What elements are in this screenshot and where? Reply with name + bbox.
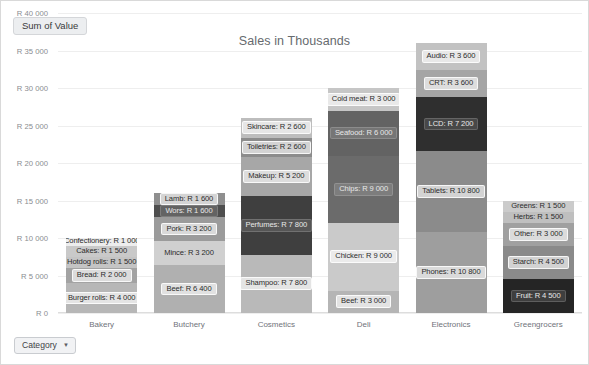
bar-segment[interactable]: Starch: R 4 500 xyxy=(503,246,574,280)
bar-segment[interactable]: Perfumes: R 7 800 xyxy=(241,196,312,255)
bar-segment[interactable]: Lamb: R 1 600 xyxy=(154,193,225,205)
bar-segment[interactable]: Hotdog rolls: R 1 500 xyxy=(66,257,137,268)
stacked-bar[interactable]: Beef: R 3 000Chicken: R 9 000Chips: R 9 … xyxy=(328,88,399,313)
bar-segment-label: Other: R 3 000 xyxy=(509,228,567,241)
bar-segment[interactable]: Pork: R 3 200 xyxy=(154,217,225,241)
bar-segment-label: Wors: R 1 600 xyxy=(160,205,217,217)
bar-segment-label: Phones: R 10 800 xyxy=(416,266,485,279)
bar-segment[interactable]: Audio: R 3 600 xyxy=(416,43,487,70)
bar-segment[interactable]: Beef: R 3 000 xyxy=(328,291,399,314)
bar-segment-label: Makeup: R 5 200 xyxy=(243,170,309,183)
bar-segment-label: Perfumes: R 7 800 xyxy=(241,219,312,232)
bar-segment-label: Toiletries: R 2 600 xyxy=(242,141,311,154)
bar-segment-label: Chips: R 9 000 xyxy=(334,183,393,196)
bar-segment-label: Confectionery: R 1 000 xyxy=(66,238,137,246)
bar-segment-label: Hotdog rolls: R 1 500 xyxy=(66,257,137,268)
y-tick-label: R 10 000 xyxy=(0,234,48,243)
category-filter-button[interactable]: Category ▼ xyxy=(14,337,76,354)
bar-segment-label: Beef: R 3 000 xyxy=(336,295,391,308)
y-tick-label: R 25 000 xyxy=(0,121,48,130)
y-tick-label: R 0 xyxy=(0,309,48,318)
y-tick-label: R 20 000 xyxy=(0,159,48,168)
stacked-bar[interactable]: Burger rolls: R 4 000Bread: R 2 000Hotdo… xyxy=(66,238,137,313)
plot-area: R 0R 5 000R 10 000R 15 000R 20 000R 25 0… xyxy=(58,13,582,313)
bar-segment[interactable]: Other: R 3 000 xyxy=(503,223,574,246)
bar-segment[interactable]: Burger rolls: R 4 000 xyxy=(66,283,137,313)
y-tick-label: R 5 000 xyxy=(0,271,48,280)
bar-segment-label: Bread: R 2 000 xyxy=(72,269,132,282)
gridline xyxy=(58,51,582,52)
bar-segment[interactable]: Shampoo: R 7 800 xyxy=(241,255,312,314)
bar-segment-label: Starch: R 4 500 xyxy=(508,256,569,269)
x-tick-label: Greengrocers xyxy=(495,320,582,329)
bar-segment-label: Audio: R 3 600 xyxy=(422,50,481,63)
bar-segment-label: Cakes: R 1 500 xyxy=(71,246,132,257)
bar-segment-label: LCD: R 7 200 xyxy=(424,118,479,131)
y-tick-label: R 15 000 xyxy=(0,196,48,205)
stacked-bar[interactable]: Fruit: R 4 500Starch: R 4 500Other: R 3 … xyxy=(503,201,574,314)
category-filter-label: Category xyxy=(22,340,57,350)
bar-segment[interactable]: Phones: R 10 800 xyxy=(416,232,487,313)
x-tick-label: Electronics xyxy=(407,320,494,329)
bar-segment[interactable]: Wors: R 1 600 xyxy=(154,205,225,217)
gridline xyxy=(58,88,582,89)
bar-segment-label: Beef: R 6 400 xyxy=(161,283,216,296)
bar-segment[interactable]: Seafood: R 6 000 xyxy=(328,111,399,156)
stacked-bar[interactable]: Phones: R 10 800Tablets: R 10 800LCD: R … xyxy=(416,43,487,313)
bar-segment-label: Greens: R 1 500 xyxy=(506,201,570,212)
bar-segment[interactable]: Skincare: R 2 600 xyxy=(241,118,312,138)
bar-segment-label: Burger rolls: R 4 000 xyxy=(66,292,137,305)
bar-segment[interactable]: Cakes: R 1 500 xyxy=(66,246,137,257)
x-tick-label: Butchery xyxy=(145,320,232,329)
bar-segment-label: Skincare: R 2 600 xyxy=(242,121,311,134)
chart-container: Sum of Value Sales in Thousands R 0R 5 0… xyxy=(0,0,589,365)
bar-segment[interactable]: Cold meat: R 3 000 xyxy=(328,88,399,111)
bar-segment[interactable]: Chips: R 9 000 xyxy=(328,156,399,224)
bar-segment-label: Mince: R 3 200 xyxy=(159,247,219,260)
bar-segment[interactable]: Herbs: R 1 500 xyxy=(503,212,574,223)
bar-segment[interactable]: Tablets: R 10 800 xyxy=(416,151,487,232)
chevron-down-icon: ▼ xyxy=(63,342,69,348)
bar-segment[interactable]: Confectionery: R 1 000 xyxy=(66,238,137,246)
bar-segment-label: Fruit: R 4 500 xyxy=(511,290,566,303)
bar-segment[interactable]: Makeup: R 5 200 xyxy=(241,157,312,196)
y-tick-label: R 30 000 xyxy=(0,84,48,93)
x-tick-label: Bakery xyxy=(58,320,145,329)
bar-segment[interactable]: Fruit: R 4 500 xyxy=(503,279,574,313)
gridline xyxy=(58,13,582,14)
bar-segment-label: Cold meat: R 3 000 xyxy=(328,93,399,106)
bar-segment[interactable]: Toiletries: R 2 600 xyxy=(241,138,312,158)
gridline xyxy=(58,313,582,314)
gridline xyxy=(58,163,582,164)
bar-segment-label: Pork: R 3 200 xyxy=(161,223,216,236)
bar-segment-label: Chicken: R 9 000 xyxy=(330,250,397,263)
measure-badge[interactable]: Sum of Value xyxy=(13,17,87,35)
gridline xyxy=(58,126,582,127)
bar-segment[interactable]: Greens: R 1 500 xyxy=(503,201,574,212)
bar-segment[interactable]: CRT: R 3 600 xyxy=(416,70,487,97)
bar-segment[interactable]: Chicken: R 9 000 xyxy=(328,223,399,291)
bar-segment-label: Shampoo: R 7 800 xyxy=(241,277,312,290)
bar-segment-label: Lamb: R 1 600 xyxy=(160,193,219,205)
bar-segment-label: Tablets: R 10 800 xyxy=(417,185,484,198)
bar-segment[interactable]: LCD: R 7 200 xyxy=(416,97,487,151)
x-tick-label: Deli xyxy=(320,320,407,329)
y-tick-label: R 35 000 xyxy=(0,46,48,55)
bar-segment[interactable]: Bread: R 2 000 xyxy=(66,268,137,283)
bar-segment-label: CRT: R 3 600 xyxy=(424,77,478,90)
stacked-bar[interactable]: Shampoo: R 7 800Perfumes: R 7 800Makeup:… xyxy=(241,118,312,313)
stacked-bar[interactable]: Beef: R 6 400Mince: R 3 200Pork: R 3 200… xyxy=(154,193,225,313)
bar-segment-label: Herbs: R 1 500 xyxy=(508,212,568,223)
bar-segment-label: Seafood: R 6 000 xyxy=(330,127,398,140)
bar-segment[interactable]: Mince: R 3 200 xyxy=(154,241,225,265)
bar-segment[interactable]: Beef: R 6 400 xyxy=(154,265,225,313)
x-tick-label: Cosmetics xyxy=(233,320,320,329)
